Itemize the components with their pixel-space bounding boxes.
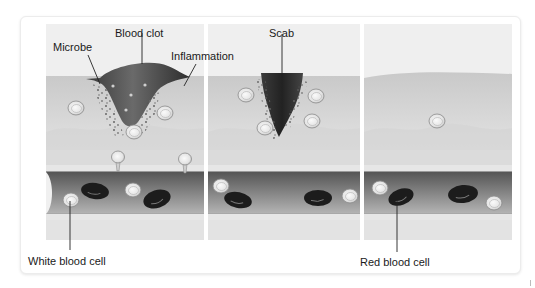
- white-blood-cell: [68, 101, 84, 115]
- white-blood-cell: [213, 179, 229, 193]
- white-blood-cell: [157, 106, 173, 120]
- label-white-blood-cell: White blood cell: [28, 255, 106, 267]
- white-blood-cell: [342, 189, 358, 203]
- corner-mark: [530, 280, 531, 286]
- red-blood-cell: [304, 190, 332, 206]
- white-blood-cell: [257, 121, 273, 135]
- label-blood-clot: Blood clot: [115, 27, 163, 39]
- white-blood-cell: [125, 183, 141, 197]
- white-blood-cell: [126, 125, 142, 139]
- white-blood-cell: [372, 181, 388, 195]
- label-red-blood-cell: Red blood cell: [360, 256, 430, 268]
- label-microbe: Microbe: [53, 41, 92, 53]
- label-scab: Scab: [269, 27, 294, 39]
- white-blood-cell: [308, 89, 324, 103]
- white-blood-cell: [429, 114, 445, 128]
- white-blood-cell: [238, 88, 254, 102]
- white-blood-cell: [304, 114, 320, 128]
- white-blood-cell: [63, 193, 79, 207]
- white-blood-cell: [486, 196, 502, 210]
- label-inflammation: Inflammation: [171, 50, 234, 62]
